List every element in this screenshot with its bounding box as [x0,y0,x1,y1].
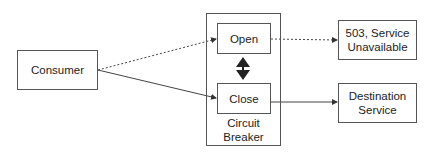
unavailable-label-line1: 503, Service [346,26,410,40]
destination-service-node: Destination Service [338,83,417,123]
close-state-node: Close [217,83,271,114]
unavailable-label-line2: Unavailable [347,40,407,54]
open-state-node: Open [217,23,271,54]
service-unavailable-node: 503, Service Unavailable [338,20,417,60]
consumer-node: Consumer [17,50,98,90]
circuit-breaker-label: Circuit Breaker [206,116,281,144]
circuit-breaker-label-line2: Breaker [206,130,281,144]
circuit-breaker-label-line1: Circuit [206,116,281,130]
open-label: Open [230,32,258,46]
destination-label-line1: Destination [349,89,407,103]
destination-label-line2: Service [358,103,396,117]
close-label: Close [229,92,258,106]
consumer-label: Consumer [31,63,84,77]
edge-consumer-close [98,70,216,98]
edge-consumer-open [98,39,216,70]
